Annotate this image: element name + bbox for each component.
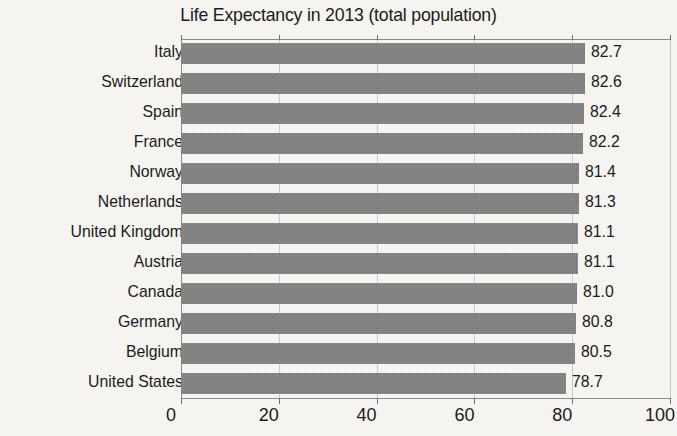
- category-label: United States: [0, 372, 183, 392]
- bar: [181, 313, 576, 334]
- category-label: Netherlands: [0, 192, 183, 212]
- chart-title: Life Expectancy in 2013 (total populatio…: [24, 4, 654, 26]
- category-label: Canada: [0, 282, 183, 302]
- bar-value-label: 81.3: [585, 192, 616, 212]
- plot-area: Italy82.7Switzerland82.6Spain82.4France8…: [181, 39, 670, 399]
- category-label: Belgium: [0, 342, 183, 362]
- bar-row: Netherlands81.3: [181, 189, 670, 219]
- bar: [181, 253, 578, 274]
- bar: [181, 283, 577, 304]
- bar-value-label: 81.1: [584, 252, 615, 272]
- bar: [181, 373, 566, 394]
- x-tick-label-60: 60: [424, 405, 504, 426]
- bar: [181, 103, 584, 124]
- bar-value-label: 78.7: [572, 372, 603, 392]
- bar-value-label: 80.8: [582, 312, 613, 332]
- x-tick-label-0: 0: [131, 405, 211, 426]
- bar: [181, 43, 585, 64]
- bar: [181, 223, 578, 244]
- bar-row: United States78.7: [181, 369, 670, 399]
- x-tick-label-100: 100: [620, 405, 677, 426]
- bar-value-label: 82.4: [590, 102, 621, 122]
- bar-row: Austria81.1: [181, 249, 670, 279]
- tick-bottom-100: [670, 398, 671, 404]
- bar-value-label: 82.6: [591, 72, 622, 92]
- bar-row: Belgium80.5: [181, 339, 670, 369]
- bar-value-label: 81.0: [583, 282, 614, 302]
- bar-chart: Life Expectancy in 2013 (total populatio…: [0, 0, 677, 436]
- category-label: Austria: [0, 252, 183, 272]
- bar-value-label: 81.1: [584, 222, 615, 242]
- bar-row: Spain82.4: [181, 99, 670, 129]
- x-tick-label-80: 80: [522, 405, 602, 426]
- bar-row: United Kingdom81.1: [181, 219, 670, 249]
- bar-row: Switzerland82.6: [181, 69, 670, 99]
- bar-row: Canada81.0: [181, 279, 670, 309]
- bar-value-label: 82.2: [589, 132, 620, 152]
- bar: [181, 133, 583, 154]
- bar: [181, 193, 579, 214]
- category-label: Spain: [0, 102, 183, 122]
- bar-row: Germany80.8: [181, 309, 670, 339]
- bar-row: Norway81.4: [181, 159, 670, 189]
- gridline-100: [670, 39, 671, 399]
- category-label: United Kingdom: [0, 222, 183, 242]
- tick-top-100: [670, 35, 671, 40]
- x-tick-label-20: 20: [229, 405, 309, 426]
- bar-value-label: 81.4: [585, 162, 616, 182]
- bar: [181, 343, 575, 364]
- bar-value-label: 80.5: [581, 342, 612, 362]
- category-label: Norway: [0, 162, 183, 182]
- x-tick-label-40: 40: [327, 405, 407, 426]
- category-label: Germany: [0, 312, 183, 332]
- bar-row: France82.2: [181, 129, 670, 159]
- category-label: Switzerland: [0, 72, 183, 92]
- bar-value-label: 82.7: [591, 42, 622, 62]
- bar-row: Italy82.7: [181, 39, 670, 69]
- bar: [181, 163, 579, 184]
- category-label: France: [0, 132, 183, 152]
- category-label: Italy: [0, 42, 183, 62]
- bar: [181, 73, 585, 94]
